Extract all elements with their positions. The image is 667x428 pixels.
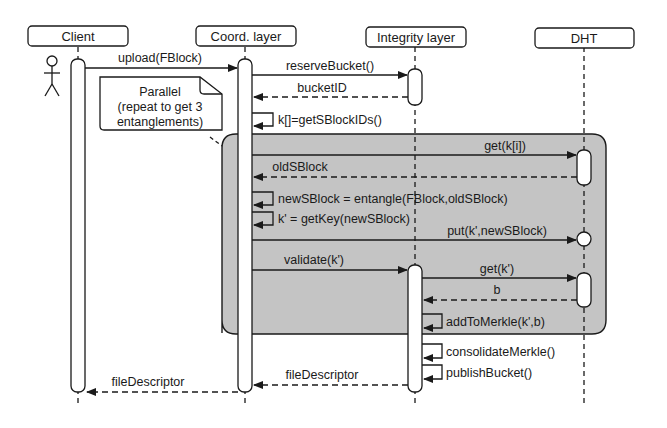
- label-b: b: [494, 283, 501, 297]
- label-entangle: newSBlock = entangle(FBlock,oldSBlock): [278, 192, 508, 206]
- label-fileDescriptor-2: fileDescriptor: [112, 375, 185, 389]
- label-fileDescriptor-1: fileDescriptor: [286, 368, 359, 382]
- participant-client-label: Client: [61, 29, 95, 44]
- label-getKey: k' = getKey(newSBlock): [278, 212, 410, 226]
- activation-integrity-2: [408, 265, 422, 392]
- participant-coord: Coord. layer: [196, 26, 296, 46]
- participant-integrity-label: Integrity layer: [377, 30, 456, 45]
- participant-coord-label: Coord. layer: [211, 29, 282, 44]
- activation-client: [71, 59, 85, 392]
- msg-consolidateMerkle: [422, 344, 442, 358]
- participant-dht-label: DHT: [571, 31, 598, 46]
- note-line-3: entanglements): [117, 115, 203, 129]
- activation-coord: [238, 59, 252, 392]
- note-line-1: Parallel: [139, 85, 181, 99]
- label-bucketID: bucketID: [297, 81, 346, 95]
- label-consolidateMerkle: consolidateMerkle(): [446, 345, 555, 359]
- participant-dht: DHT: [535, 28, 634, 48]
- label-get-ki: get(k[i]): [484, 139, 526, 153]
- label-getSBlockIDs: k[]=getSBlockIDs(): [278, 113, 382, 127]
- sequence-diagram: Client Coord. layer Integrity layer DHT …: [0, 0, 667, 428]
- label-get-kprime: get(k'): [480, 262, 514, 276]
- participant-client: Client: [28, 26, 128, 46]
- msg-publishBucket: [422, 365, 442, 379]
- label-put: put(k',newSBlock): [447, 224, 547, 238]
- label-upload: upload(FBlock): [118, 51, 202, 65]
- label-validate: validate(k'): [284, 253, 344, 267]
- note-line-2: (repeat to get 3: [118, 100, 203, 114]
- parallel-note: Parallel (repeat to get 3 entanglements): [100, 77, 222, 146]
- actor-icon: [44, 56, 60, 96]
- activation-dht-1: [577, 150, 591, 185]
- msg-getSBlockIDs: [252, 113, 273, 126]
- label-oldSBlock: oldSBlock: [272, 160, 328, 174]
- participant-integrity: Integrity layer: [366, 27, 466, 47]
- label-addToMerkle: addToMerkle(k',b): [446, 315, 545, 329]
- label-reserveBucket: reserveBucket(): [286, 59, 374, 73]
- activation-dht-3: [577, 273, 591, 307]
- activation-integrity-1: [408, 69, 422, 105]
- activation-dht-2: [577, 232, 591, 246]
- label-publishBucket: publishBucket(): [446, 366, 532, 380]
